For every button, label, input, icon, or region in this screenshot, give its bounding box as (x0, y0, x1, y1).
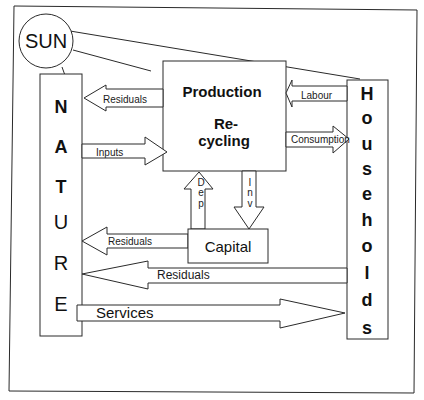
economy-nature-diagram: SUN N A T U R E H o u s e h o l d s Prod… (0, 0, 424, 400)
svg-text:U: U (54, 211, 68, 233)
inputs-arrow (82, 137, 167, 165)
svg-text:R: R (54, 252, 68, 274)
households-label: H o u s e h o l d s (361, 84, 374, 338)
svg-text:u: u (362, 134, 373, 154)
svg-text:N: N (55, 97, 68, 117)
dep-label: D e p (197, 177, 204, 209)
recycling-label-2: cycling (198, 132, 250, 149)
svg-text:E: E (54, 293, 67, 315)
svg-text:e: e (198, 187, 204, 198)
svg-text:o: o (362, 236, 373, 256)
svg-text:s: s (362, 159, 372, 179)
residuals-production-label: Residuals (103, 94, 147, 105)
svg-text:h: h (362, 210, 373, 230)
consumption-label: Consumption (291, 134, 350, 145)
svg-text:e: e (362, 184, 372, 204)
residuals-households-label: Residuals (157, 268, 210, 282)
services-label: Services (96, 304, 154, 321)
inputs-label: Inputs (96, 147, 123, 158)
residuals-capital-label: Residuals (108, 236, 152, 247)
production-label: Production (182, 83, 261, 100)
svg-text:p: p (198, 198, 204, 209)
sun-ray-to-production (73, 50, 151, 71)
svg-text:o: o (362, 108, 373, 128)
residuals-households-arrow (82, 261, 347, 289)
capital-label-text: Capital (205, 238, 252, 255)
svg-text:v: v (248, 198, 253, 209)
svg-text:s: s (362, 318, 372, 338)
svg-text:T: T (56, 177, 67, 197)
svg-text:l: l (364, 263, 369, 283)
sun-label: SUN (25, 30, 67, 52)
svg-text:n: n (247, 187, 253, 198)
svg-text:d: d (362, 290, 373, 310)
svg-text:A: A (55, 137, 68, 157)
labour-label: Labour (301, 90, 333, 101)
recycling-label-1: Re- (214, 115, 238, 132)
svg-text:H: H (361, 84, 374, 104)
